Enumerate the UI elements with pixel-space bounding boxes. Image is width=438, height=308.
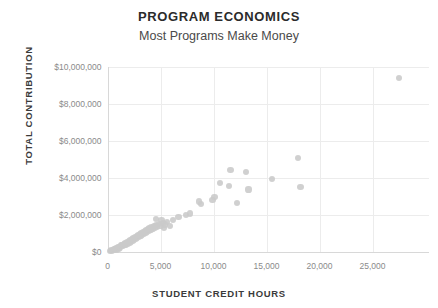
data-point [269,176,275,182]
data-point [187,210,193,216]
x-tick-label: 20,000 [290,261,350,271]
x-tick-label: 0 [78,261,138,271]
plot-area: $0$2,000,000$4,000,000$6,000,000$8,000,0… [0,0,438,308]
data-point [297,184,303,190]
y-tick-label: $8,000,000 [32,99,102,109]
data-point [227,167,233,173]
x-axis-line [108,252,429,253]
scatter-chart: PROGRAM ECONOMICS Most Programs Make Mon… [0,0,438,308]
x-tick-label: 5,000 [131,261,191,271]
y-tick-label: $6,000,000 [32,136,102,146]
data-point [243,169,249,175]
data-point [234,200,240,206]
data-point [198,201,204,207]
gridline-horizontal [108,67,429,68]
data-point [226,183,232,189]
gridline-vertical [214,67,215,252]
data-point [158,217,164,223]
data-point [295,155,301,161]
data-point [211,194,217,200]
x-tick-label: 10,000 [184,261,244,271]
y-tick-label: $10,000,000 [32,62,102,72]
y-tick-label: $4,000,000 [32,173,102,183]
gridline-vertical [373,67,374,252]
y-axis-line [108,67,109,252]
x-tick-label: 25,000 [343,261,403,271]
gridline-vertical [267,67,268,252]
gridline-horizontal [108,141,429,142]
gridline-vertical [320,67,321,252]
data-point [167,223,173,229]
x-tick-label: 15,000 [237,261,297,271]
gridline-horizontal [108,104,429,105]
y-tick-label: $2,000,000 [32,210,102,220]
data-point [175,214,181,220]
y-tick-label: $0 [32,247,102,257]
data-point [217,180,223,186]
data-point [245,186,251,192]
data-point [396,75,402,81]
